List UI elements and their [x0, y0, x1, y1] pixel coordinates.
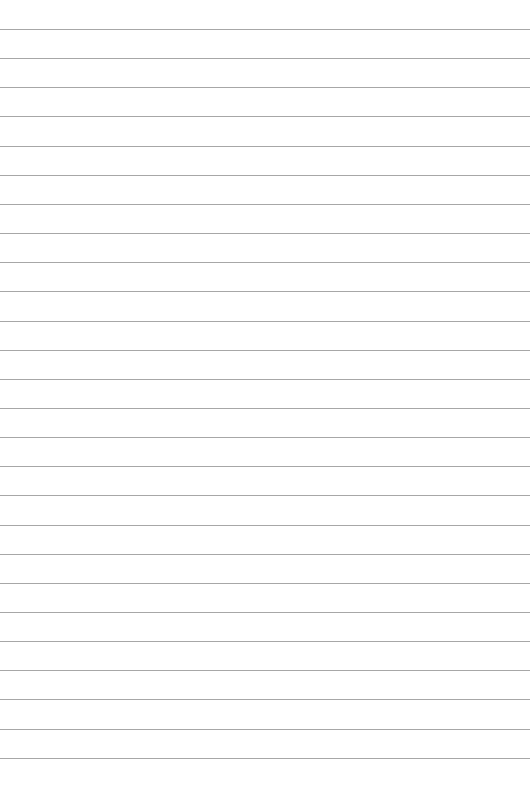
ruled-line	[0, 641, 530, 642]
ruled-line	[0, 525, 530, 526]
ruled-line	[0, 379, 530, 380]
ruled-line	[0, 758, 530, 759]
ruled-line	[0, 204, 530, 205]
ruled-line	[0, 58, 530, 59]
ruled-line	[0, 350, 530, 351]
ruled-line	[0, 233, 530, 234]
ruled-line	[0, 175, 530, 176]
ruled-line	[0, 437, 530, 438]
ruled-line	[0, 87, 530, 88]
ruled-line	[0, 262, 530, 263]
lined-paper-page	[0, 0, 530, 792]
ruled-line	[0, 321, 530, 322]
ruled-line	[0, 699, 530, 700]
ruled-line	[0, 291, 530, 292]
ruled-line	[0, 408, 530, 409]
ruled-line	[0, 116, 530, 117]
ruled-line	[0, 554, 530, 555]
ruled-line	[0, 495, 530, 496]
ruled-line	[0, 583, 530, 584]
ruled-line	[0, 729, 530, 730]
ruled-line	[0, 670, 530, 671]
ruled-line	[0, 146, 530, 147]
ruled-line	[0, 29, 530, 30]
ruled-line	[0, 612, 530, 613]
ruled-line	[0, 466, 530, 467]
